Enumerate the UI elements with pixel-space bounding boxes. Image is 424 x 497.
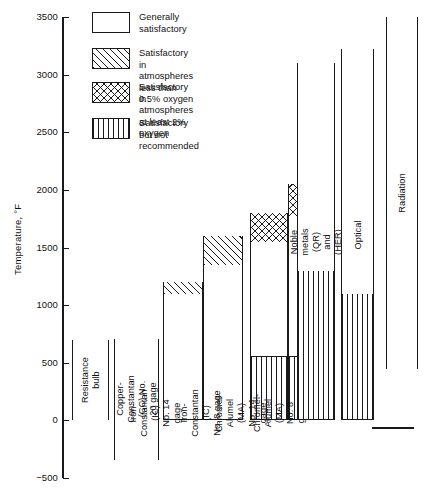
legend-label-not-recommended: Satisfactory but not recommended [139, 118, 199, 153]
bar-resistance-bulb[interactable]: Resistance bulb [72, 340, 109, 421]
y-axis-tick-label: 3000 [14, 69, 58, 80]
y-axis-tick [63, 363, 69, 364]
y-axis-tick [63, 75, 69, 76]
legend-item-generally-satisfactory[interactable]: Generally satisfactory [92, 12, 187, 35]
y-axis-tick [63, 478, 69, 479]
legend-swatch-not-recommended [92, 118, 130, 139]
temperature-range-chart: 3500300025002000150010005000−500 Tempera… [0, 0, 424, 497]
bar-segment-plain [342, 49, 373, 293]
legend-label-generally-satisfactory: Generally satisfactory [139, 12, 187, 35]
y-axis-tick-label: 0 [14, 414, 58, 425]
y-axis-tick-label: 2500 [14, 126, 58, 137]
bar-label: Noble metals (QR) and (HER) [289, 228, 344, 255]
bar-iron-constantan-ic-no-8-gage[interactable]: Iron-Constantan (IC) No. 8 gage [203, 236, 243, 420]
bar-segment-vert [342, 294, 373, 421]
bar-optical[interactable]: Optical [341, 49, 374, 420]
bar-label: Resistance bulb [80, 357, 102, 403]
y-axis-tick-label: 500 [14, 357, 58, 368]
bar-label: Optical [352, 220, 363, 249]
y-axis-tick-label: 1000 [14, 299, 58, 310]
bar-chromel-alumel-ma-no-14-gage[interactable]: Chromel-Alumel (MA) No. 14 gage [250, 213, 288, 420]
bar-label: Radiation [397, 173, 408, 212]
y-axis-tick-label: 3500 [14, 11, 58, 22]
bar-segment-vert [298, 271, 334, 421]
bar-label: Iron-Constantan (IC) No. 14 gage [128, 390, 183, 437]
y-axis-tick [63, 190, 69, 191]
zero-baseline-dash [372, 427, 414, 429]
y-axis-tick-label: −500 [14, 472, 58, 483]
legend-item-not-recommended[interactable]: Satisfactory but not recommended [92, 118, 199, 153]
bar-segment-plain [251, 242, 287, 357]
y-axis-tick [63, 420, 69, 421]
y-axis-tick [63, 248, 69, 249]
bar-segment-cross [251, 213, 287, 242]
y-axis-tick [63, 132, 69, 133]
y-axis-tick [63, 17, 69, 18]
legend-swatch-generally-satisfactory [92, 12, 130, 33]
bar-noble-metals-qr-and-her[interactable]: Noble metals (QR) and (HER) [297, 63, 335, 420]
y-axis-tick [63, 305, 69, 306]
bar-radiation[interactable]: Radiation [386, 17, 418, 369]
y-axis-title: Temperature, °F [12, 204, 23, 275]
legend-swatch-low-oxygen [92, 48, 130, 69]
legend-swatch-high-oxygen [92, 82, 130, 103]
bar-segment-diag [164, 282, 202, 294]
bar-segment-diag [204, 236, 242, 265]
y-axis-tick-label: 2000 [14, 184, 58, 195]
